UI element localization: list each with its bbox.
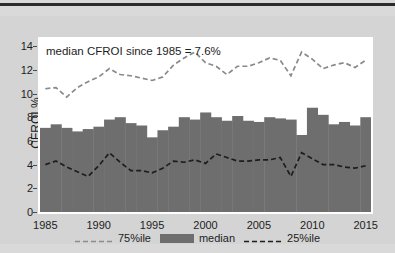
median-bar [83, 129, 94, 212]
y-tick-mark [33, 94, 37, 95]
page-top-rule [0, 3, 395, 6]
y-tick-mark [33, 212, 37, 213]
y-tick-label: 0 [13, 206, 33, 218]
median-bar [222, 121, 233, 212]
y-tick-label: 14 [13, 40, 33, 52]
median-bar [40, 128, 51, 212]
dashed-line-icon-p75 [75, 235, 113, 242]
plot-area: median CFROI since 1985 = 7.6% [38, 37, 373, 214]
median-bar [296, 135, 307, 212]
median-bars [40, 108, 371, 212]
median-bar [318, 115, 329, 212]
y-tick-mark [33, 165, 37, 166]
median-bar [179, 117, 190, 212]
median-bar [147, 137, 158, 212]
y-tick-label: 12 [13, 64, 33, 76]
legend-label-p25: 25%ile [287, 232, 320, 244]
y-tick-label: 2 [13, 182, 33, 194]
median-bar [189, 120, 200, 212]
bar-swatch-icon-median [160, 234, 194, 243]
legend-item-median: median [160, 232, 235, 244]
median-bar [254, 122, 265, 212]
y-tick-label: 6 [13, 135, 33, 147]
median-bar [104, 120, 115, 212]
plot-area-wrapper: Food, Beverage & Tobacco CFROI % 0246810… [38, 37, 373, 214]
median-bar [264, 117, 275, 212]
chart-annotation: median CFROI since 1985 = 7.6% [46, 45, 221, 57]
median-bar [136, 126, 147, 213]
y-tick-label: 8 [13, 111, 33, 123]
p75-line [45, 52, 365, 97]
chart-svg [40, 39, 371, 212]
x-tick-label: 2010 [300, 219, 324, 231]
y-tick-label: 4 [13, 159, 33, 171]
y-tick-mark [33, 188, 37, 189]
median-bar [61, 128, 72, 212]
y-tick-mark [33, 70, 37, 71]
median-bar [51, 124, 62, 212]
legend-item-p75: 75%ile [75, 232, 151, 244]
y-tick-mark [33, 117, 37, 118]
median-bar [125, 123, 136, 212]
median-bar [360, 117, 371, 212]
plot-canvas [40, 39, 371, 212]
x-tick-label: 1990 [86, 219, 110, 231]
chart-legend: 75%ile median 25%ile [0, 232, 395, 244]
median-bar [211, 117, 222, 212]
median-bar [232, 116, 243, 212]
y-tick-mark [33, 141, 37, 142]
legend-label-p75: 75%ile [118, 232, 151, 244]
y-tick-mark [33, 46, 37, 47]
x-tick-label: 1995 [140, 219, 164, 231]
median-bar [157, 130, 168, 212]
median-bar [243, 121, 254, 212]
x-tick-label: 2005 [247, 219, 271, 231]
median-bar [328, 124, 339, 212]
x-tick-label: 1985 [33, 219, 57, 231]
median-bar [168, 127, 179, 212]
legend-label-median: median [199, 232, 235, 244]
chart-figure: Food, Beverage & Tobacco CFROI % 0246810… [0, 16, 395, 244]
y-tick-label: 10 [13, 88, 33, 100]
median-bar [307, 108, 318, 212]
dashed-line-icon-p25 [244, 235, 282, 242]
x-tick-label: 2000 [193, 219, 217, 231]
x-tick-label: 2015 [353, 219, 377, 231]
legend-item-p25: 25%ile [244, 232, 320, 244]
